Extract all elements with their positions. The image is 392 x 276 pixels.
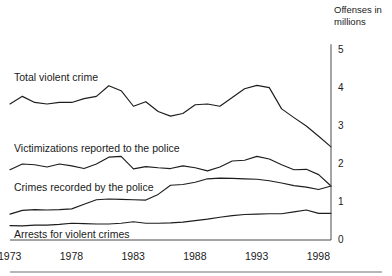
series-line-3 <box>10 210 331 226</box>
series-label-3: Arrests for violent crimes <box>14 229 130 240</box>
y-tick-1: 1 <box>338 197 344 207</box>
x-tick-1998: 1998 <box>307 251 330 262</box>
y-axis-title: Offenses inmillions <box>334 4 392 27</box>
y-tick-4: 4 <box>338 83 344 93</box>
y-tick-3: 3 <box>338 121 344 131</box>
x-tick-1978: 1978 <box>60 251 83 262</box>
x-tick-1988: 1988 <box>183 251 206 262</box>
data-lines <box>10 85 331 226</box>
x-tick-1973: 1973 <box>0 251 21 262</box>
y-tick-2: 2 <box>338 159 344 169</box>
series-label-0: Total violent crime <box>14 72 98 83</box>
y-tick-5: 5 <box>338 45 344 55</box>
x-tick-1993: 1993 <box>245 251 268 262</box>
crime-trends-line-chart: Offenses inmillions 543210 1973197819831… <box>0 0 392 276</box>
x-tick-1983: 1983 <box>121 251 144 262</box>
series-line-0 <box>10 85 331 147</box>
y-tick-0: 0 <box>338 235 344 245</box>
series-label-1: Victimizations reported to the police <box>14 143 180 154</box>
y-axis-title-line2: millions <box>334 16 366 27</box>
y-axis-title-line1: Offenses in <box>334 4 382 15</box>
series-label-2: Crimes recorded by the police <box>14 182 153 193</box>
